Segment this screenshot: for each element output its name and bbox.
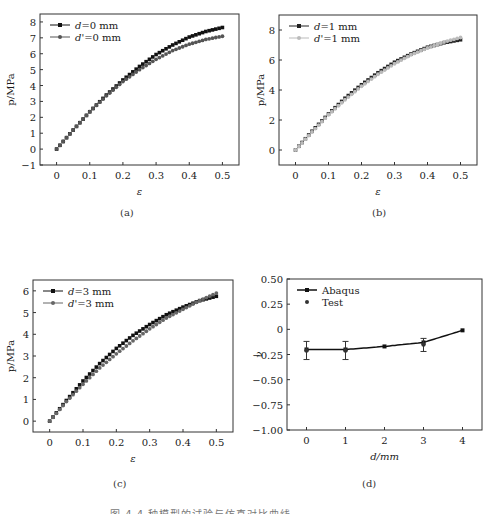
y-tick-label: 2 [269, 115, 275, 126]
x-tick-label: 0 [53, 170, 59, 181]
x-tick-label: 0.3 [148, 170, 164, 181]
legend-label: d=1 mm [314, 21, 358, 32]
y-axis-label: ν [253, 351, 264, 357]
y-tick-label: 4 [269, 85, 275, 96]
x-axis-label: ε [375, 186, 380, 197]
series-0 [48, 294, 218, 422]
y-tick-label: 6 [269, 55, 275, 66]
x-tick-label: 0 [303, 435, 309, 446]
legend-label: d'=1 mm [314, 33, 361, 44]
caption-b: (b) [372, 207, 386, 218]
legend: d=1 mmd'=1 mm [289, 21, 361, 44]
series-1 [294, 36, 463, 152]
y-tick-label: 1 [23, 394, 29, 405]
legend-label: Test [322, 297, 343, 308]
y-tick-label: 0 [269, 145, 275, 156]
y-axis-label: p/MPa [5, 73, 16, 105]
figure-caption: 图 4 4 种模型的试验与仿真对比曲线 [110, 506, 390, 514]
x-tick-label: 0.5 [208, 437, 224, 448]
chart-panel-c: 012345600.10.20.30.40.5εp/MPad=3 mmd'=3 … [0, 262, 250, 462]
legend: d=3 mmd'=3 mm [43, 286, 115, 309]
x-tick-label: 0.5 [453, 170, 469, 181]
legend: AbaqusTest [297, 285, 360, 308]
y-tick-label: 1 [30, 128, 36, 139]
y-tick-label: 8 [30, 17, 36, 28]
legend-label: d=0 mm [75, 20, 119, 31]
series-1 [55, 34, 225, 151]
x-tick-label: 0.4 [175, 437, 191, 448]
x-tick-label: 0.1 [82, 170, 98, 181]
x-tick-label: 0.4 [420, 170, 436, 181]
series-0 [55, 26, 224, 151]
x-tick-label: 0.2 [108, 437, 124, 448]
y-tick-label: 6 [30, 49, 36, 60]
chart-a: −101234567800.10.20.30.40.5εp/MPad=0 mmd… [0, 0, 250, 200]
y-tick-label: 7 [30, 33, 36, 44]
chart-d: 0.500.250−0.25−0.50−0.75−1.0001234d/mmνA… [250, 262, 499, 462]
y-tick-label: 4 [30, 81, 36, 92]
x-tick-label: 0.1 [75, 437, 91, 448]
chart-panel-b: 0246800.10.20.30.40.5εp/MPad=1 mmd'=1 mm [250, 0, 499, 200]
y-tick-label: 4 [23, 329, 29, 340]
x-axis-label: d/mm [370, 451, 399, 462]
y-tick-label: 6 [23, 286, 29, 297]
x-tick-label: 0.2 [354, 170, 370, 181]
legend-label: d'=0 mm [75, 32, 122, 43]
caption-c: (c) [113, 478, 126, 489]
y-tick-label: 3 [30, 96, 36, 107]
x-axis-label: ε [130, 453, 135, 462]
chart-c: 012345600.10.20.30.40.5εp/MPad=3 mmd'=3 … [0, 262, 250, 462]
y-tick-label: 5 [23, 308, 29, 319]
chart-panel-d: 0.500.250−0.25−0.50−0.75−1.0001234d/mmνA… [250, 262, 499, 462]
x-tick-label: 0.3 [142, 437, 158, 448]
y-axis-label: p/MPa [255, 74, 266, 106]
y-tick-label: −1 [21, 160, 36, 171]
x-tick-label: 0.4 [181, 170, 197, 181]
y-tick-label: −0.75 [252, 400, 283, 411]
y-tick-label: 0.50 [261, 274, 283, 285]
y-axis-label: p/MPa [5, 340, 16, 372]
x-tick-label: 0 [292, 170, 298, 181]
series-0 [305, 328, 465, 351]
x-tick-label: 1 [342, 435, 348, 446]
caption-a: (a) [120, 207, 134, 218]
caption-d: (d) [362, 478, 376, 489]
series-1 [48, 291, 218, 423]
x-axis-label: ε [137, 186, 142, 197]
y-tick-label: 3 [23, 351, 29, 362]
chart-b: 0246800.10.20.30.40.5εp/MPad=1 mmd'=1 mm [250, 0, 499, 200]
y-tick-label: −1.00 [252, 425, 283, 436]
legend-label: d'=3 mm [68, 298, 115, 309]
chart-panel-a: −101234567800.10.20.30.40.5εp/MPad=0 mmd… [0, 0, 250, 200]
y-tick-label: 2 [23, 373, 29, 384]
y-tick-label: −0.50 [252, 375, 283, 386]
legend-label: Abaqus [321, 285, 360, 296]
legend: d=0 mmd'=0 mm [50, 20, 122, 43]
x-tick-label: 2 [381, 435, 387, 446]
x-tick-label: 0.1 [321, 170, 337, 181]
x-tick-label: 0 [46, 437, 52, 448]
plot-frame [287, 279, 482, 430]
series-0 [294, 38, 463, 152]
x-tick-label: 4 [459, 435, 465, 446]
x-tick-label: 0.5 [214, 170, 230, 181]
y-tick-label: 0 [277, 324, 283, 335]
x-tick-label: 0.3 [387, 170, 403, 181]
legend-label: d=3 mm [68, 286, 112, 297]
y-tick-label: 5 [30, 65, 36, 76]
y-tick-label: 0 [23, 416, 29, 427]
y-tick-label: 0 [30, 144, 36, 155]
y-tick-label: 0.25 [261, 299, 283, 310]
y-tick-label: 2 [30, 112, 36, 123]
x-tick-label: 0.2 [115, 170, 131, 181]
x-tick-label: 3 [420, 435, 426, 446]
y-tick-label: 8 [269, 25, 275, 36]
